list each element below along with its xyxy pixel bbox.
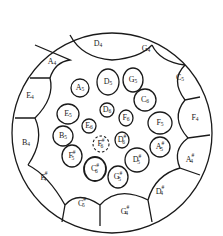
note-f4: F4: [191, 113, 198, 122]
note-b4: B4: [22, 138, 30, 147]
note-f6: F6: [122, 113, 129, 122]
note-cs5: C#5: [78, 196, 86, 208]
outer-ring-labels: D4 G4 C5 F4 A#4 D#4 G#4 C#5 F#4 B4 E4 A4: [22, 39, 199, 216]
note-d4: D4: [94, 39, 103, 48]
note-ds6: D#6: [118, 133, 127, 145]
note-as4: A#4: [186, 152, 195, 164]
steelpan-diagram: D4 G4 C5 F4 A#4 D#4 G#4 C#5 F#4 B4 E4 A4…: [0, 0, 223, 236]
note-cs6: C#6: [91, 162, 99, 174]
note-c6: C6: [141, 95, 149, 104]
note-ds4: D#4: [156, 184, 165, 196]
note-e5: E5: [64, 109, 72, 118]
note-gs5: G#5: [114, 170, 123, 182]
note-f5: F5: [156, 118, 163, 127]
pan-rim: [12, 33, 212, 233]
note-ds5: D#5: [133, 153, 142, 165]
outer-ring-dividers: [15, 35, 210, 226]
center-note: F#6: [93, 136, 109, 152]
note-fs5: F#5: [68, 149, 75, 161]
middle-ring: D5 G5 C6 F5 A#5 D#5 G#5 C#6 F#5 B5 E5 A5: [53, 68, 172, 188]
note-e4: E4: [26, 91, 34, 100]
note-c5: C5: [176, 73, 184, 82]
note-gs4: G#4: [121, 204, 130, 216]
note-b5: B5: [59, 131, 67, 140]
note-g4: G4: [142, 44, 151, 53]
note-fs4: F#4: [40, 170, 47, 182]
note-a5: A5: [76, 83, 85, 92]
note-g5: G5: [129, 75, 138, 84]
note-d5: D5: [104, 77, 113, 86]
note-e6: E6: [85, 121, 93, 130]
note-d6: D6: [103, 105, 112, 114]
note-a4: A4: [48, 57, 57, 66]
note-fs6: F#6: [97, 137, 104, 149]
inner-ring: D6 F6 D#6 E6: [82, 103, 133, 148]
note-as5: A#5: [156, 140, 165, 152]
